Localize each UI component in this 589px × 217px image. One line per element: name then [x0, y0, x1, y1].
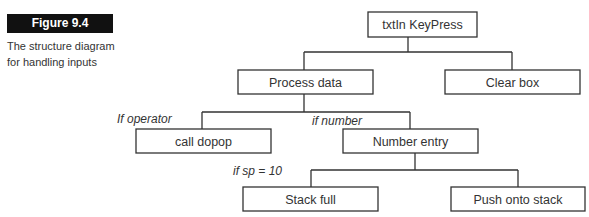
- connector-root: [304, 37, 512, 70]
- node-number: Number entry: [343, 129, 478, 153]
- connector-number: [311, 153, 518, 187]
- node-push-label: Push onto stack: [474, 193, 564, 207]
- node-root: txtIn KeyPress: [368, 12, 477, 37]
- condition-operator: If operator: [117, 112, 173, 126]
- node-root-label: txtIn KeyPress: [382, 18, 463, 32]
- structure-diagram: txtIn KeyPress Process data Clear box ca…: [0, 0, 589, 217]
- condition-number: if number: [312, 114, 363, 128]
- node-process: Process data: [238, 70, 373, 94]
- condition-sp: if sp = 10: [233, 164, 282, 178]
- node-clear: Clear box: [445, 70, 580, 94]
- connector-process: [202, 94, 410, 129]
- node-process-label: Process data: [269, 76, 342, 90]
- node-clear-label: Clear box: [486, 76, 540, 90]
- node-stackfull: Stack full: [243, 187, 378, 211]
- node-dopop: call dopop: [136, 129, 271, 153]
- node-dopop-label: call dopop: [175, 135, 232, 149]
- node-push: Push onto stack: [451, 187, 585, 211]
- node-stackfull-label: Stack full: [285, 193, 336, 207]
- node-number-label: Number entry: [373, 135, 449, 149]
